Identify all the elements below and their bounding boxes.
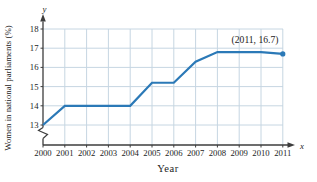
line-chart-figure: 1314151617182000200120022003200420052006… <box>0 0 317 182</box>
grid-layer <box>43 29 283 145</box>
x-tick-label: 2003 <box>100 148 117 158</box>
end-point-marker <box>280 51 285 56</box>
x-tick-label: 2004 <box>122 148 140 158</box>
x-axis-title: Year <box>157 163 179 174</box>
x-tick-label: 2001 <box>56 148 73 158</box>
chart-svg: 1314151617182000200120022003200420052006… <box>0 0 317 182</box>
series-layer <box>43 51 285 125</box>
y-tick-label: 14 <box>30 101 39 111</box>
y-tick-label: 16 <box>30 62 39 72</box>
y-axis-break <box>39 128 48 139</box>
point-annotation: (2011, 16.7) <box>232 34 279 46</box>
y-axis-arrowhead <box>40 14 46 22</box>
x-tick-label: 2008 <box>209 148 227 158</box>
x-axis-letter: x <box>299 141 304 151</box>
x-tick-label: 2002 <box>78 148 95 158</box>
x-tick-label: 2009 <box>231 148 248 158</box>
y-tick-label: 17 <box>30 43 39 53</box>
y-tick-label: 18 <box>30 24 39 34</box>
data-line <box>43 52 283 125</box>
y-axis-title: Women in national parliaments (%) <box>3 25 13 150</box>
x-tick-label: 2007 <box>187 148 205 158</box>
y-tick-label: 13 <box>30 120 39 130</box>
x-tick-label: 2000 <box>34 148 52 158</box>
x-tick-label: 2005 <box>143 148 160 158</box>
x-tick-label: 2006 <box>165 148 183 158</box>
x-tick-label: 2011 <box>274 148 291 158</box>
y-axis-letter: y <box>42 4 47 14</box>
x-tick-label: 2010 <box>252 148 270 158</box>
y-tick-label: 15 <box>30 82 39 92</box>
